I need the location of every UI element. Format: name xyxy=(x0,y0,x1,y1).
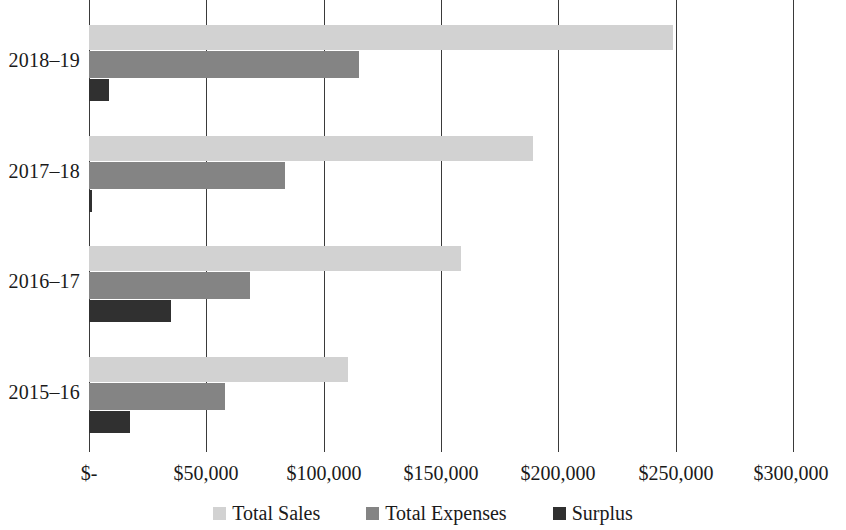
legend-item-total-sales: Total Sales xyxy=(213,502,320,524)
gridline-150000 xyxy=(441,0,442,452)
category-label-2015-16: 2015–16 xyxy=(0,382,80,402)
legend-label-total-sales: Total Sales xyxy=(232,502,320,524)
legend-swatch-icon-total-expenses xyxy=(366,507,379,520)
bar-chart: 2018–19 2017–18 2016–17 2015–16 xyxy=(0,0,846,530)
gridline-200000 xyxy=(558,0,559,452)
bar-surplus-2015-16 xyxy=(89,411,130,433)
legend-swatch-icon-surplus xyxy=(553,507,566,520)
legend-swatch-icon-total-sales xyxy=(213,507,226,520)
bar-total-sales-2017-18 xyxy=(89,136,533,161)
bar-total-expenses-2017-18 xyxy=(89,162,285,189)
x-tick-label-200000: $200,000 xyxy=(521,462,596,484)
legend-label-total-expenses: Total Expenses xyxy=(385,502,506,524)
x-tick-label-150000: $150,000 xyxy=(404,462,479,484)
plot-area xyxy=(89,0,793,452)
x-tick-label-100000: $100,000 xyxy=(287,462,362,484)
category-label-2016-17: 2016–17 xyxy=(0,271,80,291)
bar-total-sales-2015-16 xyxy=(89,357,348,382)
gridline-250000 xyxy=(676,0,677,452)
bar-total-expenses-2016-17 xyxy=(89,272,250,299)
legend: Total Sales Total Expenses Surplus xyxy=(0,496,846,530)
bar-surplus-2017-18 xyxy=(89,190,92,212)
category-label-2018-19: 2018–19 xyxy=(0,50,80,70)
bar-total-expenses-2018-19 xyxy=(89,51,359,78)
bar-total-sales-2018-19 xyxy=(89,25,673,50)
bar-total-sales-2016-17 xyxy=(89,246,461,271)
category-axis: 2018–19 2017–18 2016–17 2015–16 xyxy=(0,0,82,452)
gridline-300000 xyxy=(793,0,794,452)
bar-surplus-2018-19 xyxy=(89,79,109,101)
legend-label-surplus: Surplus xyxy=(572,502,633,524)
bar-surplus-2016-17 xyxy=(89,300,171,322)
x-tick-label-50000: $50,000 xyxy=(174,462,239,484)
category-label-2017-18: 2017–18 xyxy=(0,161,80,181)
bar-total-expenses-2015-16 xyxy=(89,383,225,410)
x-tick-label-300000: $300,000 xyxy=(754,462,829,484)
x-tick-label-0: $- xyxy=(81,462,98,484)
x-tick-label-250000: $250,000 xyxy=(639,462,714,484)
legend-item-total-expenses: Total Expenses xyxy=(366,502,506,524)
value-axis: $- $50,000 $100,000 $150,000 $200,000 $2… xyxy=(0,452,846,492)
legend-item-surplus: Surplus xyxy=(553,502,633,524)
